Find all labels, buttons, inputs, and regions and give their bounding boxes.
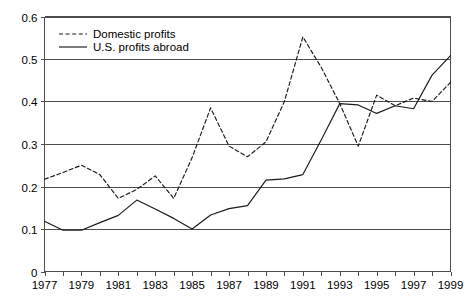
y-tick-label: 0 (31, 267, 37, 279)
x-tick-label: 1979 (69, 279, 95, 291)
y-tick-label: 0.1 (22, 224, 38, 236)
x-tick-label: 1997 (401, 279, 427, 291)
x-tick-label: 1989 (253, 279, 279, 291)
x-tick-label: 1995 (364, 279, 390, 291)
x-tick-label: 1977 (32, 279, 58, 291)
y-tick-label: 0.3 (22, 139, 38, 151)
x-tick-label: 1993 (327, 279, 353, 291)
chart-legend: Domestic profitsU.S. profits abroad (59, 28, 189, 53)
x-tick-label: 1981 (106, 279, 132, 291)
y-axis-ticks: 00.10.20.30.40.50.6 (22, 12, 45, 279)
y-tick-label: 0.5 (22, 54, 38, 66)
legend-label: Domestic profits (93, 28, 176, 40)
data-series (45, 37, 451, 230)
x-tick-label: 1985 (179, 279, 205, 291)
x-tick-label: 1983 (142, 279, 168, 291)
line-chart: 00.10.20.30.40.50.6 19771979198119831985… (0, 0, 466, 300)
y-tick-label: 0.2 (22, 182, 38, 194)
chart-canvas: 00.10.20.30.40.50.6 19771979198119831985… (0, 0, 466, 300)
x-tick-label: 1987 (216, 279, 242, 291)
x-axis-ticks: 1977197919811983198519871989199119931995… (32, 272, 464, 291)
series-line-domestic-profits (45, 37, 451, 199)
y-tick-label: 0.6 (22, 12, 38, 24)
series-line-u-s-profits-abroad (45, 56, 451, 231)
x-tick-label: 1999 (438, 279, 464, 291)
y-tick-label: 0.4 (22, 96, 39, 108)
x-tick-label: 1991 (290, 279, 316, 291)
legend-label: U.S. profits abroad (93, 41, 189, 53)
